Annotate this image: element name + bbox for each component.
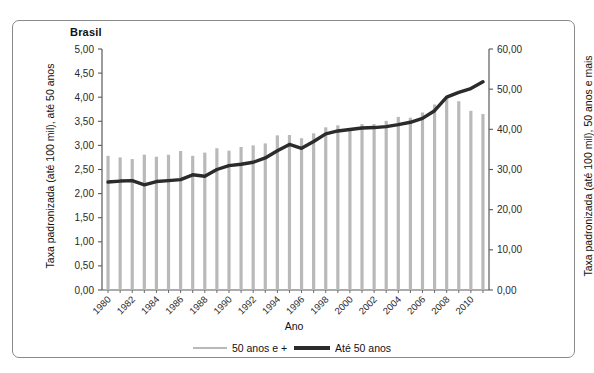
x-tick-label: 1980 [90, 294, 113, 317]
y-right-tick-label: 60,00 [497, 44, 522, 55]
y-right-tick-label: 30,00 [497, 164, 522, 175]
x-tick-label: 1998 [308, 294, 331, 317]
y-left-tick-label: 5,00 [75, 44, 95, 55]
x-tick-label: 1988 [187, 294, 210, 317]
y-left-tick-label: 3,50 [75, 116, 95, 127]
x-tick-label: 1996 [284, 294, 307, 317]
x-tick-label: 2010 [453, 294, 476, 317]
x-tick-label: 1986 [163, 294, 186, 317]
y-right-tick-label: 0,00 [497, 285, 517, 296]
y-left-tick-label: 0,50 [75, 260, 95, 271]
x-tick-label: 2008 [429, 294, 452, 317]
x-tick-label: 1982 [114, 294, 137, 317]
line-ate-50-anos [108, 82, 483, 185]
legend-label-1: Até 50 anos [335, 342, 391, 354]
y-right-tick-label: 20,00 [497, 204, 522, 215]
chart-legend: 50 anos e + Até 50 anos [0, 341, 588, 354]
x-tick-label: 1984 [139, 294, 162, 317]
x-tick-label: 2000 [332, 294, 355, 317]
x-tick-label: 1992 [235, 294, 258, 317]
legend-swatch-bars [193, 347, 227, 349]
y-left-tick-label: 1,00 [75, 236, 95, 247]
x-tick-label: 2004 [380, 294, 403, 317]
legend-swatch-line [294, 346, 330, 350]
y-right-tick-label: 40,00 [497, 124, 522, 135]
x-tick-label: 1990 [211, 294, 234, 317]
y-left-tick-label: 0,00 [75, 285, 95, 296]
y-right-tick-label: 10,00 [497, 244, 522, 255]
x-tick-label: 2006 [405, 294, 428, 317]
y-left-tick-label: 4,00 [75, 92, 95, 103]
y-left-tick-label: 2,50 [75, 164, 95, 175]
y-left-tick-label: 3,00 [75, 140, 95, 151]
x-tick-label: 1994 [260, 294, 283, 317]
y-right-tick-label: 50,00 [497, 84, 522, 95]
y-left-tick-label: 1,50 [75, 212, 95, 223]
legend-label-0: 50 anos e + [232, 342, 287, 354]
y-left-tick-label: 4,50 [75, 68, 95, 79]
y-left-tick-label: 2,00 [75, 188, 95, 199]
x-tick-label: 2002 [356, 294, 379, 317]
